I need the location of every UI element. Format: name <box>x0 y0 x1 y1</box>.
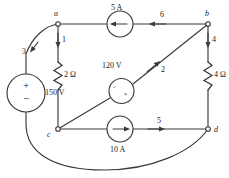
current-source-top-value: 5 A <box>111 4 122 12</box>
circuit-diagram: + − − + a b c d 1 2 3 4 5 6 5 A 10 A 150… <box>0 0 229 178</box>
wire-curve-a-to-source <box>26 24 58 74</box>
node-label-b: b <box>205 10 209 18</box>
resistor-left-value: 2 Ω <box>64 71 76 79</box>
node-label-a: a <box>54 10 58 18</box>
node-a-dot <box>56 22 61 27</box>
current-source-top-symbol <box>107 11 133 37</box>
node-label-d: d <box>214 126 218 134</box>
voltage-source-left-minus: − <box>23 92 29 104</box>
branch-label-3: 3 <box>22 48 26 56</box>
branch-label-4: 4 <box>212 36 216 44</box>
branch-3-arrow <box>32 42 38 50</box>
node-b-dot <box>206 22 211 27</box>
node-label-c: c <box>47 131 51 139</box>
branch-label-2: 2 <box>161 66 165 74</box>
branch-2-arrow <box>147 63 158 72</box>
resistor-left-symbol <box>54 62 62 90</box>
voltage-source-center-value: 120 V <box>102 62 122 70</box>
node-d-dot <box>206 127 211 132</box>
resistor-right-value: 4 Ω <box>214 71 226 79</box>
branch-label-6: 6 <box>160 11 164 19</box>
node-c-dot <box>56 127 61 132</box>
voltage-source-left-plus: + <box>23 79 29 91</box>
wire-diagonal-c-to-b <box>58 24 208 129</box>
current-source-bottom-symbol <box>107 116 133 142</box>
resistor-right-symbol <box>204 62 212 90</box>
current-source-bottom-value: 10 A <box>110 146 125 154</box>
branch-label-1: 1 <box>62 36 66 44</box>
voltage-source-left-value: 150 V <box>45 89 65 97</box>
voltage-source-center-symbol <box>109 79 134 104</box>
branch-label-5: 5 <box>157 117 161 125</box>
